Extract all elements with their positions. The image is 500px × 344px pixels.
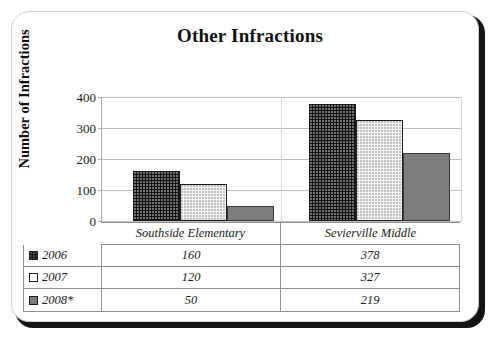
legend-label-2006: 2006 (42, 248, 67, 263)
group-separator (281, 97, 282, 221)
bar-2006-southside-elementary (133, 171, 180, 221)
tick-mark-200 (98, 159, 102, 160)
tick-mark-100 (98, 190, 102, 191)
table-row: 2006 160 378 (24, 245, 459, 267)
legend-swatch-2006-icon (29, 251, 38, 260)
category-label-sevierville-middle: Sevierville Middle (280, 223, 460, 244)
legend-entry-2006: 2006 (24, 245, 102, 266)
bar-2008-southside-elementary (227, 206, 274, 222)
category-header-row: Southside Elementary Sevierville Middle (101, 222, 460, 245)
tick-mark-400 (98, 97, 102, 98)
y-tick-label-400: 400 (56, 90, 96, 106)
y-axis-title: Number of Infractions (16, 33, 33, 169)
y-tick-label-0: 0 (56, 214, 96, 230)
table-cell-2007-southside-elementary: 120 (102, 267, 280, 288)
y-tick-label-200: 200 (56, 152, 96, 168)
plot-area (101, 97, 462, 221)
table-cell-2007-sevierville-middle: 327 (280, 267, 459, 288)
legend-label-2007: 2007 (42, 270, 67, 285)
category-label-southside-elementary: Southside Elementary (101, 223, 280, 244)
table-cell-2008-sevierville-middle: 219 (280, 289, 459, 311)
bar-2006-sevierville-middle (309, 104, 356, 221)
tick-mark-300 (98, 128, 102, 129)
y-tick-label-300: 300 (56, 121, 96, 137)
data-table: 2006 160 378 2007 120 327 2008* 50 219 (23, 245, 460, 312)
legend-label-2008: 2008* (42, 293, 73, 308)
legend-swatch-2008-icon (29, 296, 38, 305)
table-row: 2008* 50 219 (24, 289, 459, 311)
bar-2007-southside-elementary (180, 184, 227, 221)
legend-entry-2007: 2007 (24, 267, 102, 288)
bar-2007-sevierville-middle (356, 120, 403, 221)
table-cell-2008-southside-elementary: 50 (102, 289, 280, 311)
bar-2008-sevierville-middle (403, 153, 450, 221)
legend-swatch-2007-icon (29, 273, 38, 282)
legend-entry-2008: 2008* (24, 289, 102, 311)
chart-title: Other Infractions (0, 25, 500, 47)
table-cell-2006-southside-elementary: 160 (102, 245, 280, 266)
y-tick-label-100: 100 (56, 183, 96, 199)
table-row: 2007 120 327 (24, 267, 459, 289)
table-cell-2006-sevierville-middle: 378 (280, 245, 459, 266)
